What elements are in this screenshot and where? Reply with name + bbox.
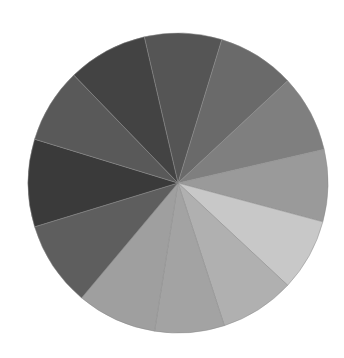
pie-chart [0, 0, 344, 358]
